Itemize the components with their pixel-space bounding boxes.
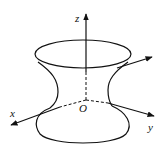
x-axis-label: x	[9, 107, 15, 119]
z-axis-label: z	[74, 12, 80, 24]
y-axis-hidden	[86, 100, 108, 103]
top-ellipse	[35, 40, 131, 68]
y-axis-label: y	[147, 121, 153, 133]
left-profile	[38, 62, 58, 108]
right-profile	[108, 62, 128, 106]
y-axis	[108, 103, 154, 116]
origin-label: O	[79, 102, 87, 114]
x-axis	[11, 107, 60, 125]
hyperboloid-diagram: z x y O	[0, 0, 164, 158]
